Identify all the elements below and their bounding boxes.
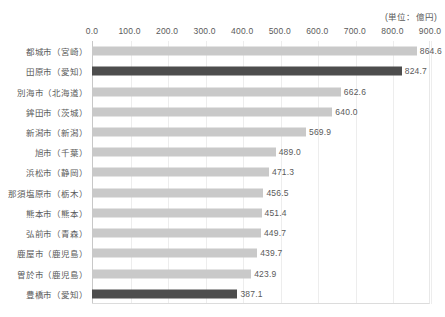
x-axis-tick-label: 700.0 — [344, 26, 366, 36]
bar-value-label: 471.3 — [272, 167, 294, 177]
bar-row: 鉾田市（茨城）640.0 — [0, 102, 445, 122]
unit-annotation: (単位：億円) — [385, 10, 437, 22]
category-label: 曽於市（鹿児島） — [0, 268, 88, 280]
bar-row: 曽於市（鹿児島）423.9 — [0, 263, 445, 283]
category-label: 浜松市（静岡） — [0, 166, 88, 178]
category-label: 都城市（宮崎） — [0, 45, 88, 57]
category-label: 鹿屋市（鹿児島） — [0, 247, 88, 259]
category-label: 弘前市（青森） — [0, 227, 88, 239]
bar — [92, 47, 417, 56]
bar-row: 都城市（宮崎）864.6 — [0, 41, 445, 61]
bar-value-label: 489.0 — [279, 147, 301, 157]
bar-row: 鹿屋市（鹿児島）439.7 — [0, 243, 445, 263]
bar-rows: 都城市（宮崎）864.6田原市（愛知）824.7別海市（北海道）662.6鉾田市… — [0, 41, 445, 304]
bar-value-label: 456.5 — [266, 188, 288, 198]
x-axis-tick-label: 500.0 — [269, 26, 291, 36]
bar-value-label: 451.4 — [265, 208, 287, 218]
bar-value-label: 640.0 — [335, 107, 357, 117]
bar — [92, 127, 306, 136]
bar-row: 旭市（千葉）489.0 — [0, 142, 445, 162]
x-axis-tick-label: 0.0 — [86, 26, 98, 36]
bar — [92, 188, 263, 197]
category-label: 豊橋市（愛知） — [0, 288, 88, 300]
bar — [92, 148, 276, 157]
bar-row: 弘前市（青森）449.7 — [0, 223, 445, 243]
category-label: 新潟市（新潟） — [0, 126, 88, 138]
bar-row: 熊本市（熊本）451.4 — [0, 203, 445, 223]
bar — [92, 269, 251, 278]
x-axis-tick-label: 100.0 — [118, 26, 140, 36]
bar-value-label: 423.9 — [254, 269, 276, 279]
bar-value-label: 439.7 — [260, 248, 282, 258]
x-axis-tick-label: 400.0 — [231, 26, 253, 36]
bar — [92, 168, 269, 177]
bar — [92, 249, 257, 258]
bar — [92, 87, 341, 96]
bar-row: 田原市（愛知）824.7 — [0, 61, 445, 81]
bar-row: 浜松市（静岡）471.3 — [0, 162, 445, 182]
bar-value-label: 387.1 — [240, 289, 262, 299]
category-label: 旭市（千葉） — [0, 146, 88, 158]
category-label: 田原市（愛知） — [0, 65, 88, 77]
x-axis-tick-label: 600.0 — [306, 26, 328, 36]
bar-row: 那須塩原市（栃木）456.5 — [0, 183, 445, 203]
bar-value-label: 449.7 — [264, 228, 286, 238]
bar-value-label: 824.7 — [405, 66, 427, 76]
x-axis-tick-label: 300.0 — [194, 26, 216, 36]
x-axis-tick-label: 800.0 — [381, 26, 403, 36]
category-label: 那須塩原市（栃木） — [0, 187, 88, 199]
bar-value-label: 569.9 — [309, 127, 331, 137]
bar-value-label: 864.6 — [420, 46, 442, 56]
bar — [92, 229, 261, 238]
bar — [92, 67, 402, 76]
bar-value-label: 662.6 — [344, 87, 366, 97]
bar — [92, 289, 237, 298]
category-label: 熊本市（熊本） — [0, 207, 88, 219]
bar — [92, 208, 262, 217]
bar — [92, 107, 332, 116]
category-label: 別海市（北海道） — [0, 86, 88, 98]
bar-row: 豊橋市（愛知）387.1 — [0, 284, 445, 304]
category-label: 鉾田市（茨城） — [0, 106, 88, 118]
bar-chart: (単位：億円) 0.0100.0200.0300.0400.0500.0600.… — [0, 0, 445, 317]
x-axis-tick-label: 900.0 — [419, 26, 441, 36]
bar-row: 別海市（北海道）662.6 — [0, 81, 445, 101]
bar-row: 新潟市（新潟）569.9 — [0, 122, 445, 142]
x-axis-tick-label: 200.0 — [156, 26, 178, 36]
x-axis-tick-labels: 0.0100.0200.0300.0400.0500.0600.0700.080… — [0, 26, 445, 40]
